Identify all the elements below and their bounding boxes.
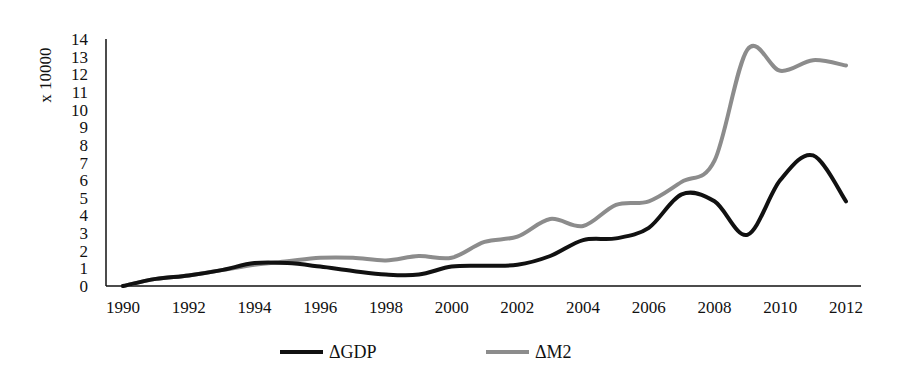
y-axis-label: x 10000 bbox=[36, 47, 55, 102]
y-tick-label: 12 bbox=[71, 65, 88, 84]
y-tick-label: 8 bbox=[80, 136, 89, 155]
legend-label-m2: ΔM2 bbox=[535, 342, 572, 363]
legend-swatch-gdp bbox=[280, 350, 323, 354]
x-tick-label: 1994 bbox=[237, 298, 272, 317]
x-tick-label: 2006 bbox=[632, 298, 666, 317]
x-tick-label: 2000 bbox=[435, 298, 469, 317]
x-tick-label: 1990 bbox=[106, 298, 140, 317]
x-axis-tick-labels: 1990199219941996199820002002200420062008… bbox=[106, 298, 863, 317]
x-tick-label: 1992 bbox=[172, 298, 206, 317]
y-axis-tick-labels: 01234567891011121314 bbox=[71, 30, 89, 296]
y-tick-label: 14 bbox=[71, 30, 89, 49]
y-tick-label: 3 bbox=[80, 224, 89, 243]
y-tick-label: 4 bbox=[80, 206, 89, 225]
line-chart: 01234567891011121314 x 10000 19901992199… bbox=[0, 0, 902, 340]
y-tick-label: 13 bbox=[71, 48, 88, 67]
y-tick-label: 7 bbox=[80, 154, 89, 173]
legend-item-gdp: ΔGDP bbox=[280, 338, 377, 366]
y-tick-label: 11 bbox=[72, 83, 88, 102]
x-tick-label: 2004 bbox=[566, 298, 601, 317]
legend-label-gdp: ΔGDP bbox=[329, 342, 377, 363]
series-lines bbox=[123, 46, 846, 286]
x-tick-label: 2002 bbox=[500, 298, 534, 317]
x-tick-label: 1996 bbox=[303, 298, 337, 317]
legend-item-m2: ΔM2 bbox=[486, 338, 572, 366]
series-line-gdp bbox=[123, 155, 846, 286]
y-tick-label: 5 bbox=[80, 189, 89, 208]
y-tick-label: 1 bbox=[80, 259, 89, 278]
x-tick-label: 1998 bbox=[369, 298, 403, 317]
y-tick-label: 9 bbox=[80, 118, 89, 137]
x-tick-label: 2008 bbox=[698, 298, 732, 317]
y-tick-label: 2 bbox=[80, 242, 89, 261]
legend-swatch-m2 bbox=[486, 350, 529, 354]
y-tick-label: 10 bbox=[71, 101, 88, 120]
y-tick-label: 6 bbox=[80, 171, 89, 190]
y-tick-label: 0 bbox=[80, 277, 89, 296]
x-tick-label: 2010 bbox=[763, 298, 797, 317]
x-tick-label: 2012 bbox=[829, 298, 863, 317]
series-line-m2 bbox=[123, 46, 846, 286]
legend: ΔGDP ΔM2 bbox=[0, 338, 902, 366]
